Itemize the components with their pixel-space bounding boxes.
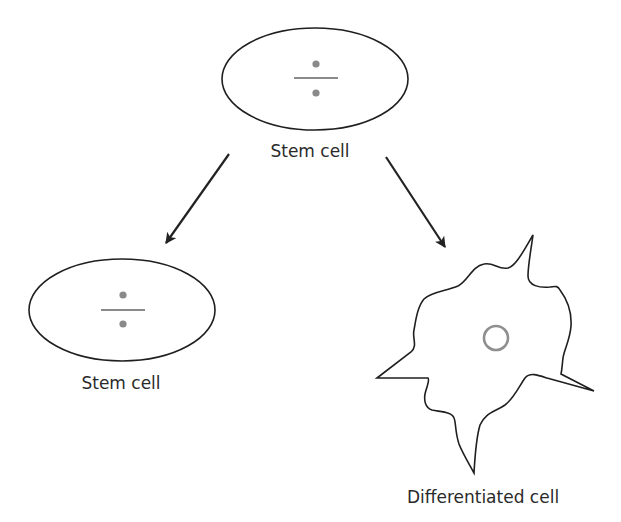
stem-cell-diagram: Stem cell Stem cell Differentiated cell xyxy=(0,0,621,522)
differentiated-cell-membrane xyxy=(377,235,594,473)
division-sign-icon xyxy=(294,60,338,96)
daughter-stem-cell-label: Stem cell xyxy=(81,373,160,393)
differentiated-cell-label: Differentiated cell xyxy=(407,487,559,507)
differentiated-cell: Differentiated cell xyxy=(377,235,594,507)
daughter-stem-cell: Stem cell xyxy=(29,259,215,393)
parent-stem-cell: Stem cell xyxy=(222,28,408,161)
nucleus-icon xyxy=(484,326,508,350)
division-sign-icon xyxy=(101,291,145,327)
parent-cell-label: Stem cell xyxy=(270,141,349,161)
arrow-to-stem-cell xyxy=(166,154,229,243)
arrow-to-differentiated-cell xyxy=(386,157,445,247)
